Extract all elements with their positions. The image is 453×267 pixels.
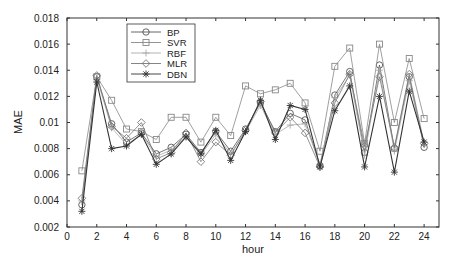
- y-tick-label: 0.008: [34, 143, 59, 154]
- y-tick-label: 0.004: [34, 195, 59, 206]
- series-line: [82, 65, 424, 205]
- x-tick-label: 4: [124, 231, 130, 242]
- y-tick-label: 0.014: [34, 65, 59, 76]
- legend-label: MLR: [167, 58, 187, 69]
- x-tick-label: 22: [389, 231, 401, 242]
- x-tick-label: 20: [359, 231, 371, 242]
- y-axis: 0.0020.0040.0060.0080.010.0120.0140.0160…: [34, 13, 439, 233]
- legend-label: BP: [167, 27, 180, 38]
- series-line: [82, 74, 424, 198]
- x-tick-label: 12: [240, 231, 252, 242]
- x-tick-label: 24: [419, 231, 431, 242]
- asterisk-marker-icon: [123, 143, 130, 150]
- x-tick-label: 8: [183, 231, 189, 242]
- asterisk-marker-icon: [376, 93, 383, 100]
- asterisk-marker-icon: [197, 150, 204, 157]
- asterisk-marker-icon: [331, 107, 338, 114]
- legend-label: SVR: [167, 37, 187, 48]
- x-tick-label: 18: [329, 231, 341, 242]
- plus-marker-icon: [287, 122, 294, 129]
- asterisk-marker-icon: [391, 169, 398, 176]
- legend-label: RBF: [167, 48, 186, 59]
- x-tick-label: 0: [64, 231, 70, 242]
- asterisk-marker-icon: [227, 157, 234, 164]
- asterisk-marker-icon: [257, 97, 264, 104]
- asterisk-marker-icon: [138, 131, 145, 138]
- asterisk-legend-icon: [143, 71, 150, 78]
- y-tick-label: 0.018: [34, 13, 59, 24]
- y-tick-label: 0.01: [40, 117, 60, 128]
- asterisk-marker-icon: [108, 145, 115, 152]
- y-tick-label: 0.016: [34, 39, 59, 50]
- y-axis-label: MAE: [12, 110, 24, 134]
- asterisk-marker-icon: [421, 139, 428, 146]
- asterisk-marker-icon: [78, 208, 85, 215]
- x-tick-label: 2: [94, 231, 100, 242]
- asterisk-marker-icon: [302, 106, 309, 113]
- x-tick-label: 16: [300, 231, 312, 242]
- asterisk-marker-icon: [168, 150, 175, 157]
- series-bp: [79, 62, 428, 208]
- asterisk-marker-icon: [346, 82, 353, 89]
- series-dbn: [78, 79, 427, 215]
- asterisk-marker-icon: [316, 163, 323, 170]
- x-tick-label: 6: [153, 231, 159, 242]
- x-tick-label: 14: [270, 231, 282, 242]
- asterisk-marker-icon: [242, 128, 249, 135]
- asterisk-marker-icon: [93, 79, 100, 86]
- asterisk-marker-icon: [153, 161, 160, 168]
- y-tick-label: 0.006: [34, 169, 59, 180]
- series-line: [82, 82, 424, 211]
- asterisk-marker-icon: [361, 163, 368, 170]
- legend-label: DBN: [167, 69, 187, 80]
- legend: BPSVRRBFMLRDBN: [127, 24, 195, 82]
- mae-line-chart: 024681012141618202224 0.0020.0040.0060.0…: [0, 0, 453, 267]
- x-tick-label: 10: [210, 231, 222, 242]
- asterisk-marker-icon: [272, 136, 279, 143]
- asterisk-marker-icon: [287, 102, 294, 109]
- asterisk-marker-icon: [183, 133, 190, 140]
- x-axis-label: hour: [242, 243, 264, 255]
- asterisk-marker-icon: [212, 127, 219, 134]
- y-tick-label: 0.012: [34, 91, 59, 102]
- series-rbf: [78, 67, 427, 205]
- asterisk-marker-icon: [406, 88, 413, 95]
- y-tick-label: 0.002: [34, 222, 59, 233]
